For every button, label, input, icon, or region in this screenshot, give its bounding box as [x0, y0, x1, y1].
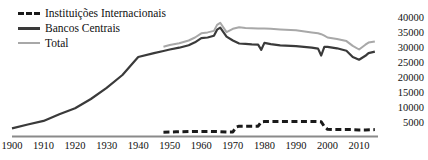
- x-tick-2010: 2010: [349, 140, 370, 151]
- x-tick-1980: 1980: [254, 140, 275, 151]
- legend-label: Instituições Internacionais: [45, 7, 166, 20]
- x-tick-1950: 1950: [159, 140, 180, 151]
- x-tick-1990: 1990: [285, 140, 306, 151]
- chart-legend: Instituições Internacionais Bancos Centr…: [18, 6, 166, 50]
- legend-item-total[interactable]: Total: [18, 36, 166, 50]
- solid-gray-line-marker-icon: [18, 42, 40, 44]
- legend-item-bancos-centrais[interactable]: Bancos Centrais: [18, 21, 166, 35]
- x-tick-1900: 1900: [2, 140, 23, 151]
- dashed-line-marker-icon: [18, 12, 40, 15]
- legend-label: Bancos Centrais: [45, 22, 120, 35]
- line-chart: Instituições Internacionais Bancos Centr…: [0, 0, 428, 160]
- x-tick-1930: 1930: [96, 140, 117, 151]
- x-tick-2000: 2000: [317, 140, 338, 151]
- x-tick-1920: 1920: [65, 140, 86, 151]
- x-tick-1960: 1960: [191, 140, 212, 151]
- x-tick-1970: 1970: [222, 140, 243, 151]
- solid-dark-line-marker-icon: [18, 27, 40, 30]
- legend-label: Total: [45, 37, 68, 50]
- legend-item-instituicoes-internacionais[interactable]: Instituições Internacionais: [18, 6, 166, 20]
- x-tick-1910: 1910: [33, 140, 54, 151]
- x-tick-1940: 1940: [128, 140, 149, 151]
